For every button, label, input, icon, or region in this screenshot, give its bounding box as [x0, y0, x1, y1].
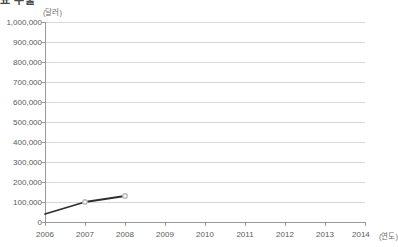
data-series-layer: [45, 194, 127, 214]
gridlines: [45, 23, 365, 223]
data-point-marker: [123, 194, 127, 198]
axis-lines: [42, 22, 46, 223]
data-point-marker: [83, 200, 87, 204]
series-line: [45, 196, 125, 214]
